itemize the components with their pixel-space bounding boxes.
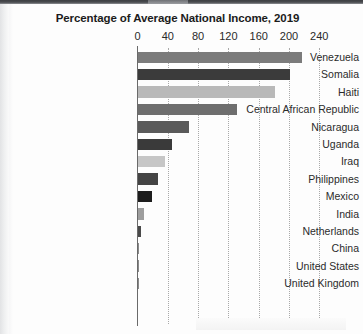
x-tick-label: 240 <box>310 30 328 42</box>
bar-chart: Percentage of Average National Income, 2… <box>0 4 363 334</box>
x-tick-label: 0 <box>134 30 140 42</box>
category-label: Venezuela <box>230 51 363 63</box>
x-tick-label: 40 <box>162 30 174 42</box>
category-label: Philippines <box>230 173 363 185</box>
bar <box>138 173 158 185</box>
bar <box>138 139 172 151</box>
scanned-page: Percentage of Average National Income, 2… <box>0 0 363 334</box>
category-label: Haiti <box>230 86 363 98</box>
category-label: Netherlands <box>230 225 363 237</box>
bar <box>138 278 139 290</box>
category-label: Central African Republic <box>230 103 363 115</box>
category-label: China <box>230 242 363 254</box>
bar <box>138 260 139 272</box>
category-label: United States <box>230 260 363 272</box>
bar <box>138 226 141 238</box>
x-tick-label: 160 <box>250 30 268 42</box>
category-label: Mexico <box>230 190 363 202</box>
bar <box>138 243 139 255</box>
bar <box>138 121 190 133</box>
category-label: Iraq <box>230 155 363 167</box>
chart-title: Percentage of Average National Income, 2… <box>0 12 355 24</box>
category-label: United Kingdom <box>230 277 363 289</box>
bar <box>138 208 145 220</box>
x-tick-label: 80 <box>192 30 204 42</box>
x-tick-label: 120 <box>219 30 237 42</box>
bar <box>138 156 165 168</box>
category-label: Somalia <box>230 68 363 80</box>
category-label: Nicaragua <box>230 121 363 133</box>
category-label: India <box>230 208 363 220</box>
bar <box>138 191 152 203</box>
bar <box>138 104 238 116</box>
category-label: Uganda <box>230 138 363 150</box>
scan-artifact <box>196 318 346 330</box>
x-tick-label: 200 <box>280 30 298 42</box>
